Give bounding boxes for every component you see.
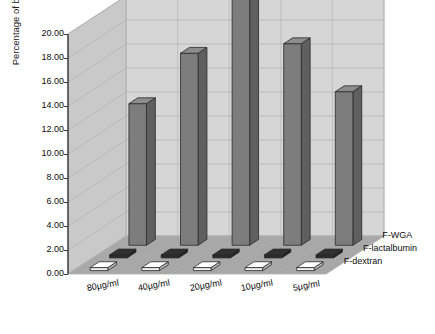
y-axis-tick-mark bbox=[64, 154, 68, 155]
y-axis-tick-mark bbox=[64, 106, 68, 107]
y-axis-tick-mark bbox=[64, 226, 68, 227]
legend-item-f-dextran: F-dextran bbox=[344, 256, 383, 266]
y-axis-tick-mark bbox=[64, 34, 68, 35]
y-axis-tick-mark bbox=[64, 82, 68, 83]
y-axis-tick-mark bbox=[64, 178, 68, 179]
legend-item-f-wga: F-WGA bbox=[382, 230, 412, 240]
y-axis-tick-mark bbox=[64, 250, 68, 251]
y-axis-tick-mark bbox=[64, 202, 68, 203]
legend-item-f-lactalbumin: F-lactalbumin bbox=[363, 243, 417, 253]
y-axis-tick-mark bbox=[64, 58, 68, 59]
y-axis-tick-mark bbox=[64, 274, 68, 275]
binding-percentage-3d-bar-chart: Percentage of binding 0.002.004.006.008.… bbox=[0, 0, 435, 334]
y-axis-tick-mark bbox=[64, 130, 68, 131]
